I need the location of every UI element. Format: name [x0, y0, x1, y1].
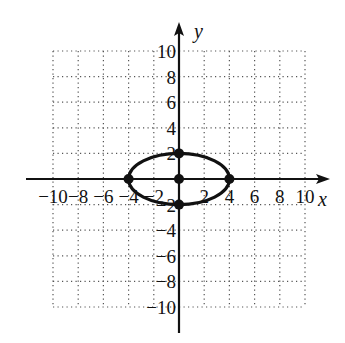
point-co-vertex-top: [174, 148, 184, 158]
y-tick-label: 8: [167, 67, 177, 88]
x-tick-label: 10: [296, 186, 315, 207]
y-tick-label: −4: [156, 220, 177, 241]
y-tick-label: −8: [156, 271, 176, 292]
x-tick-label: 6: [250, 186, 260, 207]
x-tick-label: −4: [118, 186, 139, 207]
point-co-vertex-bottom: [174, 200, 184, 210]
y-tick-label: −6: [156, 246, 176, 267]
coordinate-plane: x y −10−8−6−4−2246810−10−8−6−4−2246810: [0, 0, 345, 343]
x-tick-label: 8: [275, 186, 285, 207]
y-tick-label: 6: [167, 92, 177, 113]
x-tick-label: 2: [199, 186, 209, 207]
x-tick-label: −10: [38, 186, 68, 207]
point-vertex-right: [224, 174, 234, 184]
y-tick-label: 10: [157, 41, 176, 62]
x-tick-label: −8: [68, 186, 88, 207]
x-axis-label: x: [317, 188, 327, 210]
y-tick-label: −10: [146, 297, 176, 318]
point-vertex-left: [124, 174, 134, 184]
point-center: [174, 174, 184, 184]
x-tick-label: −6: [93, 186, 113, 207]
y-axis-label: y: [192, 20, 203, 43]
y-tick-label: 4: [167, 118, 177, 139]
